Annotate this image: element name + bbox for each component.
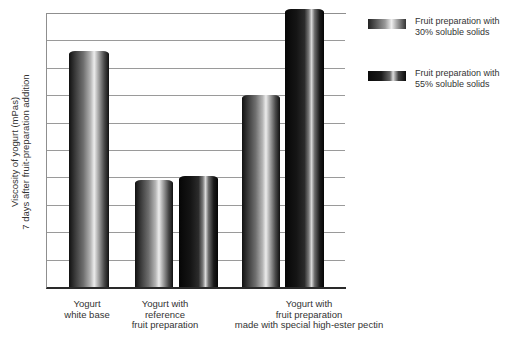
legend-label-55pct: Fruit preparation with 55% soluble solid… [415,68,523,89]
legend-label-line: 30% soluble solids [415,27,523,38]
bar-4 [242,95,280,287]
category-label-line: made with special high-ester pectin [216,320,402,331]
y-axis-label-line1: Viscosity of yogurt (mPas) [9,12,20,292]
bar-3 [179,176,218,287]
y-axis-label-line2: 7 days after fruit-preparation addition [20,12,31,292]
legend-label-line: 55% soluble solids [415,79,523,90]
bar-5 [285,9,324,287]
legend-label-line: Fruit preparation with [415,16,523,27]
viscosity-bar-chart: Viscosity of yogurt (mPas) 7 days after … [0,0,529,351]
legend-label-line: Fruit preparation with [415,68,523,79]
legend-swatch-30pct [368,19,406,29]
category-label-line: Yogurt with [115,299,215,310]
category-label-reference-fruit-preparation: Yogurt with reference fruit preparation [115,299,215,331]
y-axis-label: Viscosity of yogurt (mPas) 7 days after … [9,12,32,292]
bar-1 [69,51,109,287]
category-label-high-ester-pectin: Yogurt with fruit preparation made with … [216,299,402,331]
category-label-line: fruit preparation [115,320,215,331]
bar-2 [135,180,173,287]
legend-swatch-55pct [368,71,406,81]
category-label-line: Yogurt with [216,299,402,310]
legend-label-30pct: Fruit preparation with 30% soluble solid… [415,16,523,37]
